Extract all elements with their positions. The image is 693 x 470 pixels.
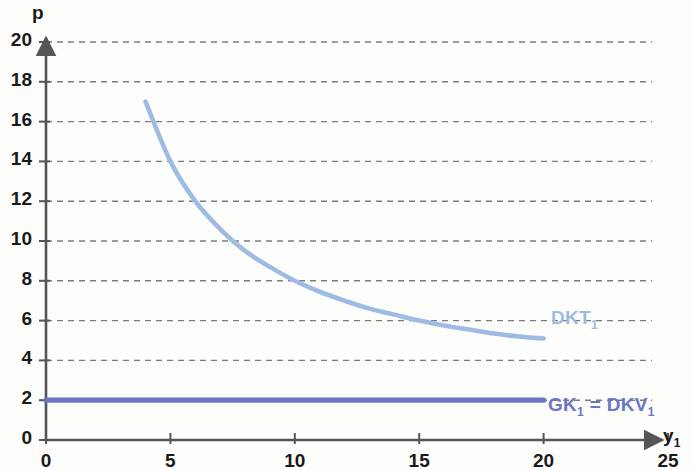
y-tick-label: 4 xyxy=(2,347,32,369)
y-tick-label: 16 xyxy=(2,109,32,131)
x-tick-label: 5 xyxy=(150,450,190,470)
x-tick-label: 10 xyxy=(275,450,315,470)
y-tick-label: 10 xyxy=(2,228,32,250)
x-tick-label: 0 xyxy=(26,450,66,470)
x-axis-title-text: y xyxy=(663,425,674,446)
axis-group xyxy=(46,38,662,440)
x-axis-title: y1 xyxy=(663,425,681,450)
y-tick-label: 2 xyxy=(2,387,32,409)
series-label-gk-text-b: = DKV xyxy=(584,394,648,415)
y-tick-label: 0 xyxy=(2,427,32,449)
cost-curve-chart: p y1 02468101214161820 0510152025 DKT1 G… xyxy=(0,0,693,470)
y-tick-label: 20 xyxy=(2,29,32,51)
x-tick-label: 25 xyxy=(648,450,688,470)
data-series-group xyxy=(46,102,544,401)
y-tick-label: 18 xyxy=(2,69,32,91)
x-tick-label: 15 xyxy=(399,450,439,470)
y-tick-label: 6 xyxy=(2,308,32,330)
x-axis-title-subscript: 1 xyxy=(674,436,681,450)
series-label-gk-subscript-b: 1 xyxy=(648,405,655,419)
series-path-dkt xyxy=(146,102,544,339)
y-axis-title: p xyxy=(32,2,44,24)
y-tick-label: 8 xyxy=(2,268,32,290)
y-axis-title-text: p xyxy=(32,2,44,23)
series-label-dkt-subscript: 1 xyxy=(591,318,598,332)
gridline-group xyxy=(46,42,652,400)
series-label-gk-text-a: GK xyxy=(548,394,577,415)
y-tick-label: 14 xyxy=(2,148,32,170)
series-label-gk: GK1 = DKV1 xyxy=(548,394,655,419)
series-label-dkt: DKT1 xyxy=(551,307,598,332)
y-tick-label: 12 xyxy=(2,188,32,210)
tick-mark-group xyxy=(39,42,668,444)
x-tick-label: 20 xyxy=(524,450,564,470)
series-label-dkt-text: DKT xyxy=(551,307,591,328)
